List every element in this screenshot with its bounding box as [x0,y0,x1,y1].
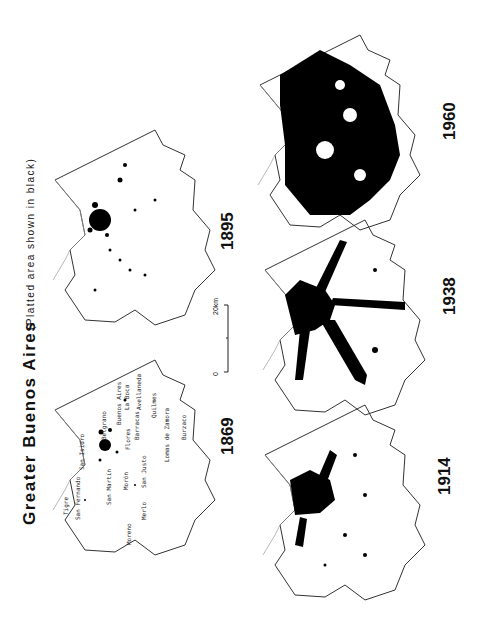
place-label: Merlo [140,502,147,520]
map-subtitle: (Platted area shown in black) [25,158,36,330]
place-label: Tigre [62,497,69,515]
year-label-1869: 1869 [218,417,238,455]
place-label: San Fernando [74,477,81,520]
year-label-1914: 1914 [435,457,455,495]
place-label: Buenos Aires [115,382,122,425]
place-label: Belgrano [100,411,107,440]
map-1938 [263,220,425,415]
place-label: Flores [124,428,131,450]
map-1914 [263,405,425,600]
place-label: San Martín [105,469,112,505]
place-label: Moreno [125,523,132,545]
scale-end-label: 20km [212,298,219,315]
place-label: San Justo [140,455,147,488]
buenos-aires-growth-map: Greater Buenos Aires (Platted area shown… [0,0,479,625]
year-label-1895: 1895 [218,212,238,250]
place-label: Avellaneda [135,374,142,410]
place-label: La Boca [123,385,130,410]
place-label: Lomas de Zamora [163,408,170,462]
place-label: San Isidro [78,434,85,470]
place-label: Burzaco [180,415,187,440]
place-label: Quilmes [150,393,157,418]
year-label-1938: 1938 [440,277,460,315]
place-label: Barracas [133,411,140,440]
map-1895 [53,130,215,325]
map-1960 [258,35,420,230]
map-title: Greater Buenos Aires [20,321,40,525]
scale-bar [224,305,228,372]
maps-canvas [0,0,479,625]
scale-start-label: 0 [212,372,219,376]
year-label-1960: 1960 [440,102,460,140]
place-label: Morón [122,472,129,490]
